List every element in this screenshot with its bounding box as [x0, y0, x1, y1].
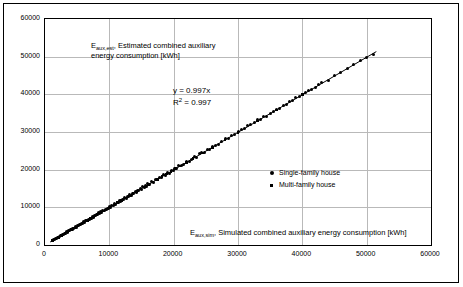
data-point	[165, 173, 168, 176]
data-point	[192, 157, 195, 160]
legend-item-single-family: Single-family house	[267, 167, 340, 179]
data-point	[147, 183, 150, 186]
r-squared-exponent: 2	[179, 97, 182, 103]
r-squared-value: = 0.997	[182, 98, 211, 107]
legend-item-multi-family: Multi-family house	[267, 179, 340, 191]
data-point	[77, 225, 80, 228]
x-tick-label: 0	[21, 250, 67, 257]
data-point	[217, 143, 220, 146]
x-tick-label: 60000	[407, 250, 453, 257]
data-point	[132, 192, 135, 195]
data-point	[256, 120, 259, 123]
data-point	[156, 178, 159, 181]
data-point	[60, 234, 63, 237]
x-tick-label: 50000	[343, 250, 389, 257]
y-tick-label: 40000	[4, 89, 40, 96]
equation-annotation: y = 0.997x R2 = 0.997	[173, 85, 211, 109]
data-point	[224, 139, 227, 142]
data-point	[89, 217, 92, 220]
data-point	[174, 167, 177, 170]
data-point	[106, 208, 109, 211]
x-axis-subscript: aux,sim	[195, 232, 214, 238]
data-point	[170, 170, 173, 173]
data-point	[116, 201, 119, 204]
data-point	[64, 232, 67, 235]
data-point	[136, 190, 139, 193]
data-point	[185, 161, 188, 164]
y-tick-label: 60000	[4, 14, 40, 21]
data-point	[372, 53, 375, 56]
r-squared-line: R2 = 0.997	[173, 97, 211, 109]
data-point	[86, 219, 89, 222]
data-point	[152, 181, 155, 184]
data-point	[201, 152, 204, 155]
data-point	[124, 197, 127, 200]
data-point	[179, 165, 182, 168]
data-point	[67, 230, 70, 233]
y-axis-subscript: aux,est	[96, 45, 114, 51]
data-point	[211, 146, 214, 149]
data-point	[285, 103, 288, 106]
x-axis-text: , Simulated combined auxiliary energy co…	[214, 228, 407, 237]
data-point	[346, 67, 349, 70]
data-point	[83, 221, 86, 224]
y-tick-label: 10000	[4, 202, 40, 209]
data-point	[113, 204, 116, 207]
data-point	[140, 188, 143, 191]
data-point	[93, 215, 96, 218]
x-tick-label: 40000	[278, 250, 324, 257]
legend: Single-family house Multi-family house	[267, 167, 340, 191]
scatter-chart: Eaux,est, Estimated combined auxiliary e…	[0, 0, 463, 287]
equation-line: y = 0.997x	[173, 85, 211, 97]
legend-label-single-family: Single-family house	[279, 167, 340, 179]
x-axis-title: Eaux,sim, Simulated combined auxiliary e…	[190, 228, 407, 237]
plot-area: Eaux,est, Estimated combined auxiliary e…	[44, 18, 432, 246]
data-point	[80, 223, 83, 226]
x-tick-label: 10000	[85, 250, 131, 257]
x-tick-label: 30000	[214, 250, 260, 257]
y-tick-label: 20000	[4, 165, 40, 172]
data-point	[54, 238, 57, 241]
r-squared-prefix: R	[173, 98, 179, 107]
y-tick-label: 0	[4, 240, 40, 247]
data-point	[128, 195, 131, 198]
data-point	[99, 212, 102, 215]
data-point	[161, 175, 164, 178]
x-tick-label: 20000	[150, 250, 196, 257]
data-point	[102, 210, 105, 213]
legend-marker-square-icon	[267, 179, 276, 191]
data-point	[120, 199, 123, 202]
y-axis-title: Eaux,est, Estimated combined auxiliary e…	[91, 41, 237, 61]
data-point	[73, 227, 76, 230]
y-tick-label: 50000	[4, 52, 40, 59]
data-point	[314, 86, 317, 89]
data-point	[96, 213, 99, 216]
data-point	[143, 186, 146, 189]
data-point	[70, 228, 73, 231]
data-point	[327, 79, 330, 82]
y-tick-label: 30000	[4, 127, 40, 134]
data-point	[109, 206, 112, 209]
legend-label-multi-family: Multi-family house	[279, 179, 335, 191]
data-point	[301, 93, 304, 96]
data-point	[57, 236, 60, 239]
legend-marker-circle-icon	[267, 167, 276, 179]
data-point	[275, 109, 278, 112]
data-point	[237, 131, 240, 134]
